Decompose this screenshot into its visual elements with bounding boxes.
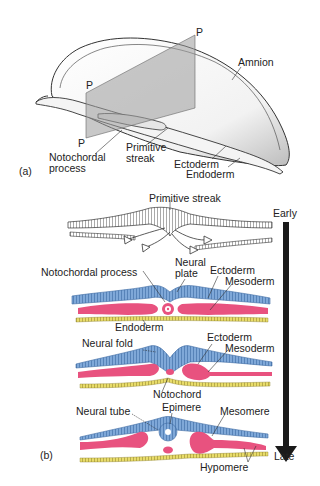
early-to-late-arrow (275, 222, 297, 462)
label-endoderm-stage2: Endoderm (115, 322, 163, 333)
label-primitive-streak-b: Primitive streak (149, 193, 221, 204)
label-neural-tube: Neural tube (76, 406, 130, 417)
panel-b-tag: (b) (40, 450, 53, 461)
timeline-early: Early (273, 208, 297, 219)
label-mesomere: Mesomere (220, 406, 270, 417)
stage4-neural-tube-section (80, 413, 268, 462)
label-epimere: Epimere (162, 402, 201, 413)
label-mesoderm-stage3: Mesoderm (225, 343, 275, 354)
label-neural-plate-2: plate (175, 268, 198, 279)
label-mesoderm-stage2: Mesoderm (225, 276, 275, 287)
label-neural-fold: Neural fold (82, 338, 133, 349)
label-notochord: Notochord (153, 389, 201, 400)
timeline-late: Late (274, 451, 294, 462)
label-notochordal-process-b: Notochordal process (41, 267, 137, 278)
stage1-primitive-streak-section (68, 200, 272, 254)
label-hypomere: Hypomere (200, 462, 248, 473)
